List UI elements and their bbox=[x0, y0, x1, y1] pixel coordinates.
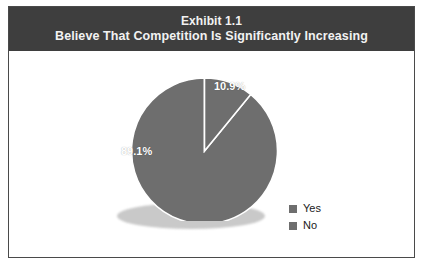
exhibit-frame: Exhibit 1.1 Believe That Competition Is … bbox=[8, 6, 415, 258]
legend-label-no: No bbox=[303, 220, 317, 231]
chart-title-line-1: Exhibit 1.1 bbox=[181, 15, 242, 28]
chart-plot-area: 10.9% 89.1% Yes No bbox=[9, 51, 414, 257]
chart-legend: Yes No bbox=[289, 203, 321, 231]
pie-label-no: 10.9% bbox=[214, 80, 245, 92]
legend-swatch-icon bbox=[289, 205, 297, 213]
legend-label-yes: Yes bbox=[303, 203, 321, 214]
legend-item-no: No bbox=[289, 220, 321, 231]
legend-item-yes: Yes bbox=[289, 203, 321, 214]
pie-chart bbox=[115, 56, 295, 221]
chart-title-bar: Exhibit 1.1 Believe That Competition Is … bbox=[9, 7, 414, 51]
legend-swatch-icon bbox=[289, 222, 297, 230]
pie-label-yes: 89.1% bbox=[121, 145, 152, 157]
chart-title-line-2: Believe That Competition Is Significantl… bbox=[55, 29, 368, 43]
